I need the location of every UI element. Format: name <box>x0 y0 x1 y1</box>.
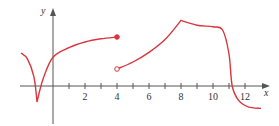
x-tick-labels: 24681012 <box>83 91 251 102</box>
axes <box>20 8 270 124</box>
curve-piece-1 <box>21 37 117 102</box>
figure: 24681012 x y <box>0 0 279 126</box>
x-tick-label: 12 <box>240 91 250 102</box>
y-axis-label: y <box>40 5 46 16</box>
filled-dot-icon <box>115 35 120 40</box>
x-tick-label: 10 <box>208 91 218 102</box>
x-tick-label: 6 <box>147 91 152 102</box>
endpoint-markers <box>115 35 120 72</box>
x-axis-label: x <box>263 87 269 98</box>
open-circle-icon <box>115 67 120 72</box>
function-graph: 24681012 x y <box>0 0 279 126</box>
curves <box>21 20 261 108</box>
x-tick-label: 8 <box>179 91 184 102</box>
x-tick-label: 2 <box>83 91 88 102</box>
y-axis-arrow-icon <box>50 8 56 16</box>
x-tick-label: 4 <box>115 91 120 102</box>
